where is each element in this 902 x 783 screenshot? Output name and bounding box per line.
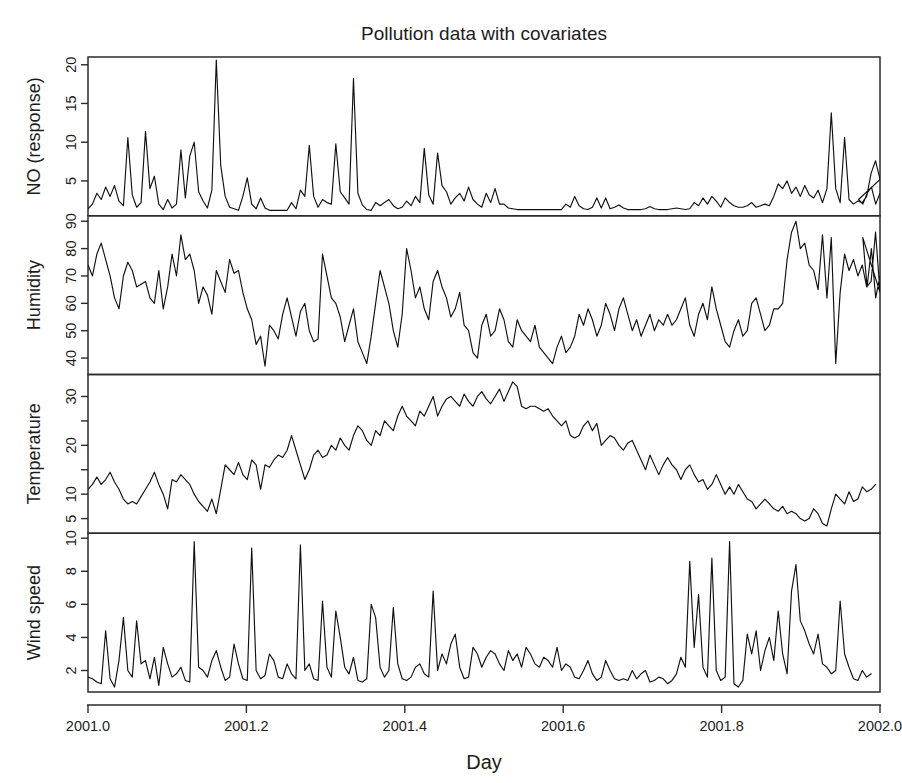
x-tick-label: 2001.0 [66,718,110,734]
page-title: Pollution data with covariates [361,23,607,44]
figure-background [0,0,902,783]
y-tick-label: 8 [63,567,79,575]
y-tick-label: 5 [63,177,79,185]
y-tick-label: 4 [63,633,79,641]
x-tick-label: 2002.0 [858,718,902,734]
y-tick-label: 30 [63,388,79,404]
panel-axis-label: NO (response) [24,77,44,195]
pollution-covariates-figure: Pollution data with covariates 5101520NO… [0,0,902,783]
y-tick-label: 80 [63,241,79,257]
y-tick-label: 60 [63,295,79,311]
y-tick-label: 20 [63,57,79,73]
panel-axis-label: Wind speed [24,565,44,660]
y-tick-label: 5 [63,515,79,523]
y-tick-label: 15 [63,95,79,111]
y-tick-label: 10 [63,134,79,150]
y-tick-label: 2 [63,666,79,674]
y-tick-label: 40 [63,350,79,366]
y-tick-label: 10 [63,530,79,546]
y-tick-label: 90 [63,213,79,229]
panel-axis-label: Temperature [24,403,44,504]
y-tick-label: 50 [63,323,79,339]
x-tick-label: 2001.6 [541,718,585,734]
x-tick-label: 2001.8 [699,718,743,734]
y-tick-label: 10 [63,486,79,502]
x-axis-title: Day [466,751,502,773]
x-tick-label: 2001.4 [383,718,427,734]
panel-axis-label: Humidity [24,260,44,330]
y-tick-label: 70 [63,268,79,284]
x-tick-label: 2001.2 [224,718,268,734]
y-tick-label: 20 [63,437,79,453]
y-tick-label: 6 [63,600,79,608]
chart-canvas: Pollution data with covariates 5101520NO… [0,0,902,783]
